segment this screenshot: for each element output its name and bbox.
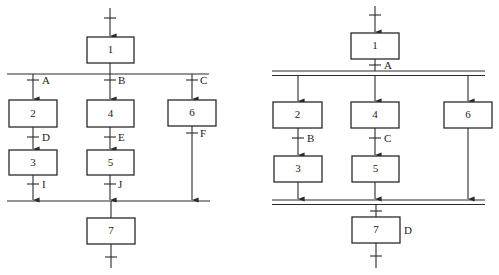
step-5-label: 5 — [108, 156, 114, 168]
step-3-label: 3 — [295, 162, 301, 174]
left-diagram: 1 A B C 2 4 6 D E F — [7, 8, 216, 268]
transition-a-label: A — [384, 59, 392, 71]
step-2-label: 2 — [295, 108, 301, 120]
sfc-diagrams: 1 A B C 2 4 6 D E F — [0, 0, 499, 275]
step-6-label: 6 — [189, 106, 195, 118]
transition-c-label: C — [200, 74, 207, 86]
transition-b-label: B — [118, 74, 125, 86]
transition-i-label: I — [42, 178, 46, 190]
step-2-label: 2 — [30, 107, 36, 119]
step-3-label: 3 — [30, 156, 36, 168]
step-4-label: 4 — [372, 108, 378, 120]
transition-e-label: E — [118, 131, 125, 143]
step-6-label: 6 — [465, 108, 471, 120]
right-diagram: 1 A 2 4 6 B C 3 5 — [272, 6, 492, 268]
step-7-label: 7 — [373, 223, 379, 235]
step-4-label: 4 — [108, 107, 114, 119]
step-1-label: 1 — [372, 39, 378, 51]
step-1-label: 1 — [108, 43, 114, 55]
transition-f-label: F — [200, 127, 206, 139]
step-7-action-label: D — [404, 224, 412, 236]
transition-b-label: B — [307, 132, 314, 144]
step-7-label: 7 — [108, 224, 114, 236]
transition-a-label: A — [42, 74, 50, 86]
transition-d-label: D — [42, 131, 50, 143]
transition-j-label: J — [118, 178, 123, 190]
transition-c-label: C — [384, 132, 391, 144]
step-5-label: 5 — [373, 162, 379, 174]
